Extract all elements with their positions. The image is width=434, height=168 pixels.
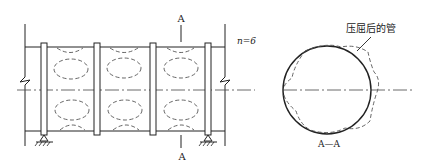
buckle-lobes [54,48,198,130]
stiffener-ring-2 [94,43,100,135]
buckling-diagram: A A n=6 压屈后的管 A—A [0,0,434,168]
section-title: A—A [317,139,340,149]
mode-number-label: n=6 [237,36,256,46]
callout-leader [357,37,371,51]
right-wall-line [220,24,230,146]
section-mark-top: A [176,13,185,24]
support-left [35,135,53,146]
elevation-view [17,24,255,148]
stiffener-ring-1 [41,43,47,135]
stiffener-ring-4 [205,43,211,135]
stiffener-ring-3 [150,43,156,135]
left-wall-line [20,24,30,146]
section-mark-bottom: A [177,151,186,162]
support-right [199,135,217,146]
buckled-pipe-callout: 压屈后的管 [346,22,396,34]
section-view [283,37,414,134]
